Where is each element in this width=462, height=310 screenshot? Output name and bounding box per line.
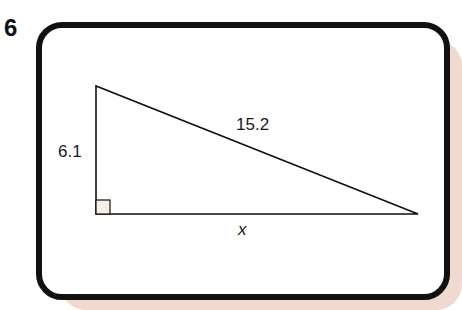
horizontal-leg-label: x	[238, 220, 247, 240]
hypotenuse-label: 15.2	[236, 115, 269, 135]
triangle-shape	[96, 86, 418, 214]
right-angle-marker-icon	[96, 200, 110, 214]
vertical-leg-label: 6.1	[58, 142, 82, 162]
